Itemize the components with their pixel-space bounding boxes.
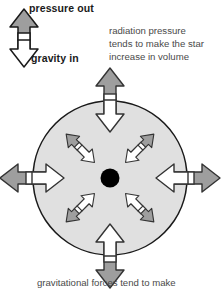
gravitational-forces-note: gravitational forces tend to make <box>37 276 176 289</box>
radiation-note-line-2: tends to make the star <box>109 37 204 50</box>
gravity-note-line-1: gravitational forces tend to make <box>37 276 176 289</box>
radiation-pressure-note: radiation pressure tends to make the sta… <box>109 24 204 64</box>
radiation-note-line-1: radiation pressure <box>109 24 204 37</box>
legend-pressure-out-label: pressure out <box>29 2 94 14</box>
radiation-note-line-3: increase in volume <box>109 50 204 63</box>
legend-gravity-in-label: gravity in <box>31 52 79 64</box>
star-core-dot <box>101 169 120 188</box>
diagram-canvas: pressure out gravity in radiation pressu… <box>0 0 221 296</box>
